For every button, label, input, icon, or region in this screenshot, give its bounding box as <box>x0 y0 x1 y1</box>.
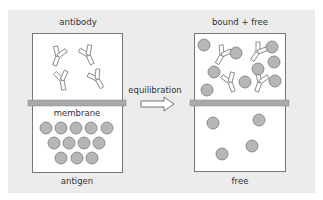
label-bound-free: bound + free <box>212 17 268 27</box>
equilibration-arrow-icon <box>141 97 174 111</box>
label-free: free <box>232 176 249 186</box>
antigen-icon <box>208 66 220 78</box>
antigen-icon <box>201 84 213 96</box>
antigen-icon <box>198 39 210 51</box>
antigen-icon <box>78 137 90 149</box>
antigen-icon <box>55 152 67 164</box>
antigen-icon <box>239 76 251 88</box>
label-membrane: membrane <box>54 108 101 118</box>
antigen-icon <box>269 75 281 87</box>
antigen-icon <box>63 137 75 149</box>
right-membrane <box>190 100 289 106</box>
antigen-icon <box>40 122 52 134</box>
antigen-icon <box>253 114 265 126</box>
antigen-icon <box>252 63 264 75</box>
antigen-icon <box>246 140 258 152</box>
antigen-icon <box>93 137 105 149</box>
right-chamber <box>190 34 289 172</box>
antigen-icon <box>266 41 278 53</box>
label-antigen: antigen <box>61 176 93 186</box>
antigen-icon <box>55 122 67 134</box>
antigen-icon <box>86 152 98 164</box>
antigen-icon <box>216 148 228 160</box>
label-antibody: antibody <box>59 17 96 27</box>
antigen-icon <box>71 152 83 164</box>
antigen-icon <box>230 47 242 59</box>
antigen-icon <box>48 137 60 149</box>
left-chamber <box>28 34 126 173</box>
antigen-icon <box>85 122 97 134</box>
antigen-icon <box>101 122 113 134</box>
equilibrium-dialysis-diagram <box>0 0 323 200</box>
left-membrane <box>28 100 126 106</box>
antigen-icon <box>207 117 219 129</box>
antigen-icon <box>70 122 82 134</box>
antigen-icon <box>268 56 280 68</box>
label-equilibration: equilibration <box>128 85 181 95</box>
